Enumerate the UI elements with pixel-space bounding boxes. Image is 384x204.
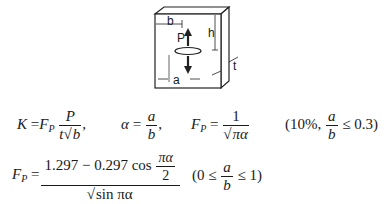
equation-fp-exact: FP = 1.297 − 0.297 cos πα 2 √sin πα xyxy=(12,150,181,202)
denominator: b xyxy=(146,126,158,142)
k-symbol: K xyxy=(17,116,27,132)
condition-relation: ≤ 0.3) xyxy=(342,116,378,132)
label-a: a xyxy=(173,73,180,87)
ab-fraction: a b xyxy=(221,160,233,193)
label-h: h xyxy=(208,26,215,40)
equals: = xyxy=(31,166,39,182)
plate-with-hole-figure xyxy=(140,0,250,100)
condition-open: (10%, xyxy=(285,116,321,132)
numerator: 1 xyxy=(223,109,249,126)
b-symbol: b xyxy=(72,125,82,142)
label-t: t xyxy=(233,59,236,73)
f-symbol: F xyxy=(191,116,200,132)
label-b: b xyxy=(167,14,174,28)
ab-fraction: a b xyxy=(326,109,338,142)
condition-relation: ≤ 1) xyxy=(237,167,261,183)
numerator-text: 1.297 − 0.297 cos xyxy=(45,157,152,173)
cos-denominator: 2 xyxy=(156,167,174,183)
p-subscript: P xyxy=(200,123,206,134)
denominator: b xyxy=(221,177,233,193)
k-fraction: P t√b xyxy=(59,109,81,142)
radicand: πα xyxy=(231,125,248,142)
numerator: P xyxy=(59,109,81,126)
denominator: b xyxy=(326,126,338,142)
label-p: P xyxy=(177,31,185,45)
equals: = xyxy=(31,116,39,132)
cos-arg-fraction: πα 2 xyxy=(156,150,174,183)
f-symbol: F xyxy=(12,166,21,182)
condition-1: (10%, a b ≤ 0.3) xyxy=(285,109,378,142)
equation-k: K =FP P t√b , xyxy=(17,109,86,142)
condition-2: (0 ≤ a b ≤ 1) xyxy=(192,160,262,193)
equals: = xyxy=(133,116,141,132)
alpha-fraction: a b xyxy=(146,109,158,142)
equals: = xyxy=(210,116,218,132)
condition-open: (0 ≤ xyxy=(192,167,216,183)
equation-fp-approx: FP = 1 √πα xyxy=(191,109,250,142)
numerator: a xyxy=(326,109,338,126)
plate-diagram: b h P a t xyxy=(140,0,250,100)
numerator: a xyxy=(221,160,233,177)
p-subscript: P xyxy=(48,123,54,134)
cos-numerator: πα xyxy=(156,150,174,167)
fp-fraction: 1 √πα xyxy=(223,109,249,142)
alpha-symbol: α xyxy=(121,116,129,132)
equation-alpha: α = a b , xyxy=(121,109,162,142)
fp-exact-fraction: 1.297 − 0.297 cos πα 2 √sin πα xyxy=(41,150,180,202)
comma: , xyxy=(158,116,162,132)
numerator: a xyxy=(146,109,158,126)
p-subscript: P xyxy=(21,173,27,184)
comma: , xyxy=(82,116,86,132)
radicand: sin πα xyxy=(95,185,134,202)
